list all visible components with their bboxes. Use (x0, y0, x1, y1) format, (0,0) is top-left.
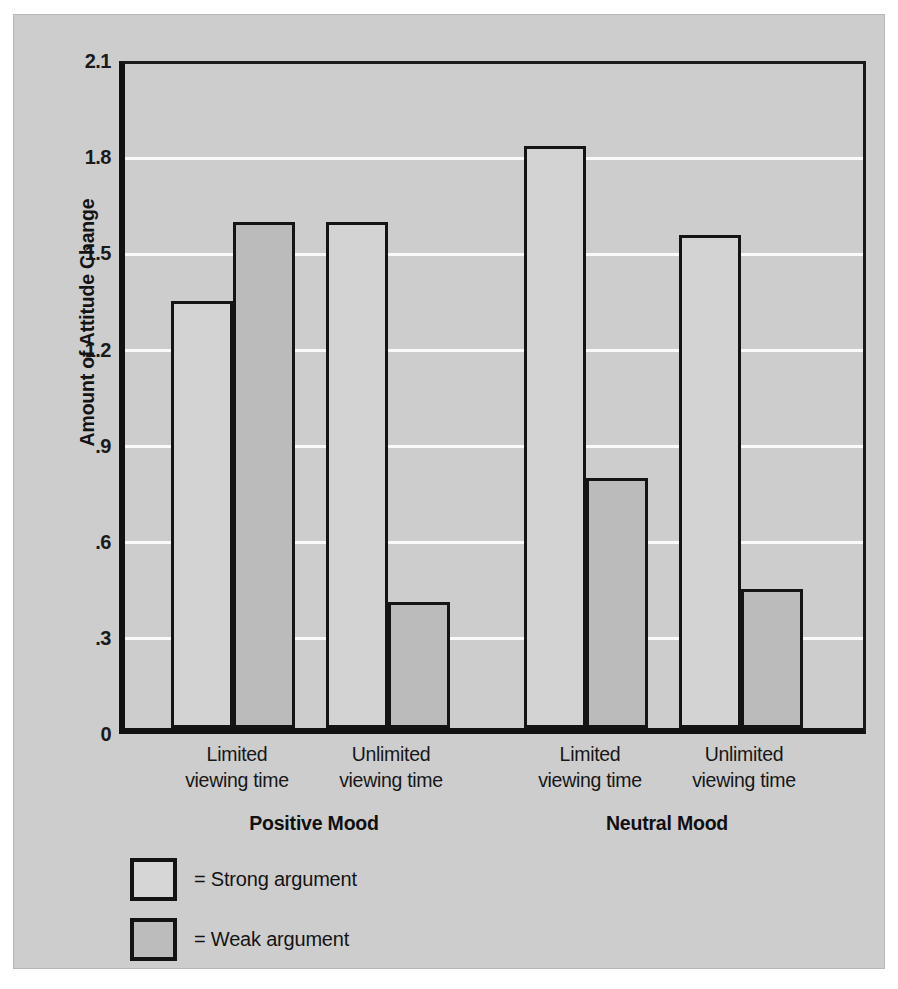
legend-swatch-weak-icon (130, 918, 177, 961)
bar-neutral-limited-weak (586, 478, 648, 728)
bar-neutral-unlimited-weak (741, 589, 803, 728)
x-axis-label-line1: Unlimited (654, 742, 834, 768)
chart-figure: 2.1 1.8 1.5 1.2 .9 .6 .3 0 Amount of Att… (13, 14, 885, 969)
x-axis-label-line2: viewing time (500, 768, 680, 794)
y-tick-label: .3 (51, 627, 111, 650)
chart-legend: = Strong argument = Weak argument (130, 856, 357, 976)
x-axis-label-group: Unlimited viewing time (654, 742, 834, 793)
plot-area (119, 61, 866, 734)
x-axis-group-labels: Positive Mood Neutral Mood (119, 812, 866, 842)
y-axis-title: Amount of Attitude Change (76, 173, 99, 473)
legend-label-weak: = Weak argument (194, 928, 349, 951)
plot-inner (125, 64, 863, 728)
group-label-positive-mood: Positive Mood (224, 812, 404, 835)
group-label-neutral-mood: Neutral Mood (577, 812, 757, 835)
x-axis-label-line1: Limited (500, 742, 680, 768)
y-tick-label: 1.8 (51, 146, 111, 169)
y-tick-label: .6 (51, 531, 111, 554)
bar-neutral-limited-strong (524, 146, 586, 728)
y-tick-label: 2.1 (51, 50, 111, 73)
legend-item-strong: = Strong argument (130, 856, 357, 903)
x-axis-label-line1: Unlimited (301, 742, 481, 768)
x-axis-label-group: Limited viewing time (500, 742, 680, 793)
bar-positive-unlimited-weak (388, 602, 450, 728)
legend-swatch-strong-icon (130, 858, 177, 901)
bar-positive-limited-weak (233, 222, 295, 728)
legend-item-weak: = Weak argument (130, 916, 357, 963)
legend-label-strong: = Strong argument (194, 868, 357, 891)
bar-positive-unlimited-strong (326, 222, 388, 728)
x-axis-label-line1: Limited (147, 742, 327, 768)
x-axis-label-line2: viewing time (301, 768, 481, 794)
bar-neutral-unlimited-strong (679, 235, 741, 728)
bar-positive-limited-strong (171, 301, 233, 728)
gridline (125, 157, 863, 160)
x-axis-label-group: Limited viewing time (147, 742, 327, 793)
x-axis-labels: Limited viewing time Unlimited viewing t… (119, 742, 866, 804)
x-axis-label-line2: viewing time (654, 768, 834, 794)
x-axis-label-group: Unlimited viewing time (301, 742, 481, 793)
y-tick-label: 0 (51, 723, 111, 746)
x-axis-label-line2: viewing time (147, 768, 327, 794)
